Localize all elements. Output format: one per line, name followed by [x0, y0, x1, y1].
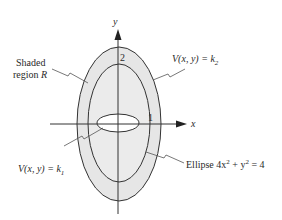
y-intercept-label: 2	[120, 52, 125, 63]
ellipse-prefix: Ellipse 4x	[186, 159, 226, 170]
level-curve-k2-label: V(x, y) = k2	[172, 53, 219, 67]
diagram-canvas: y x 2 1 Shaded region R V(x, y) = k2 V(x…	[0, 0, 282, 220]
y-axis-arrow-icon	[115, 29, 122, 40]
k2-subscript: 2	[215, 59, 219, 67]
level-curve-k1-label: V(x, y) = k1	[18, 163, 64, 177]
leader-k2	[153, 69, 185, 80]
region-symbol-r: R	[40, 69, 47, 80]
shaded-region-word: region	[13, 69, 41, 80]
y-axis-label: y	[112, 16, 118, 27]
shaded-region-label-line1: Shaded	[16, 57, 45, 68]
k1-prefix: V(x, y) = k	[18, 163, 61, 175]
x-axis-label: x	[190, 118, 196, 129]
x-intercept-label: 1	[148, 112, 153, 123]
ellipse-equation-label: Ellipse 4x2 + y2 = 4	[186, 158, 265, 170]
k1-subscript: 1	[61, 169, 65, 177]
leader-shaded-region	[52, 69, 88, 83]
ellipse-mid: + y	[230, 159, 246, 170]
x-axis-arrow-icon	[176, 121, 187, 128]
ellipse-suffix: = 4	[249, 159, 265, 170]
shaded-region-label-line2: region R	[13, 69, 47, 80]
k2-prefix: V(x, y) = k	[172, 53, 215, 65]
